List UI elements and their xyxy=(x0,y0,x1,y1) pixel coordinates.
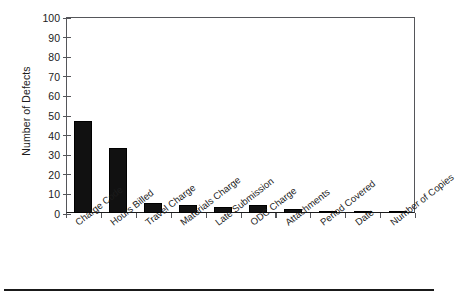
y-tick-label: 60 xyxy=(48,89,60,103)
bar xyxy=(74,121,92,213)
y-tick-label: 50 xyxy=(48,109,60,123)
bar-slot xyxy=(380,17,415,213)
y-tick-label: 100 xyxy=(42,11,60,25)
x-axis-labels: Charge CodeHours BilledTravel ChargeMate… xyxy=(66,213,415,288)
y-tick-label: 90 xyxy=(48,31,60,45)
x-tick-mark xyxy=(415,213,416,218)
y-tick-label: 80 xyxy=(48,50,60,64)
y-axis-title: Number of Defects xyxy=(20,31,32,191)
bottom-divider-rule xyxy=(4,289,434,291)
bar-slot xyxy=(275,17,310,213)
y-tick-label: 10 xyxy=(48,187,60,201)
bar-slot xyxy=(310,17,345,213)
bar-slot xyxy=(66,17,101,213)
y-tick-label: 70 xyxy=(48,70,60,84)
bar-slot xyxy=(136,17,171,213)
bar xyxy=(109,148,127,213)
y-tick-label: 30 xyxy=(48,148,60,162)
y-tick-label: 40 xyxy=(48,129,60,143)
y-tick-label: 20 xyxy=(48,168,60,182)
y-tick-label: 0 xyxy=(54,207,60,221)
